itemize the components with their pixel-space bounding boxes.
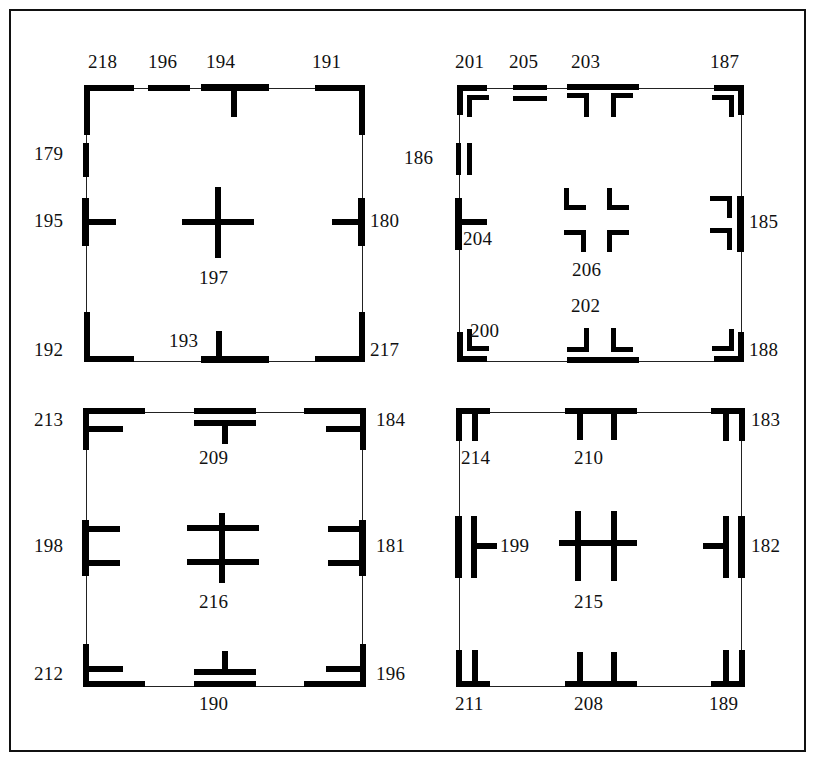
label-215: 215: [574, 592, 603, 611]
label-188: 188: [749, 340, 778, 359]
label-201: 201: [455, 52, 484, 71]
label-191: 191: [312, 52, 341, 71]
label-179: 179: [34, 144, 63, 163]
label-190: 190: [199, 694, 228, 713]
label-195: 195: [34, 211, 63, 230]
label-202: 202: [571, 296, 600, 315]
label-196-bottom: 196: [376, 664, 405, 683]
label-210: 210: [574, 448, 603, 467]
panel-outline: [86, 88, 363, 362]
label-218: 218: [88, 52, 117, 71]
label-217: 217: [370, 340, 399, 359]
label-214: 214: [461, 448, 490, 467]
label-185: 185: [749, 212, 778, 231]
label-181: 181: [376, 536, 405, 555]
label-196-top: 196: [148, 52, 177, 71]
label-184: 184: [376, 410, 405, 429]
label-208: 208: [574, 694, 603, 713]
label-187: 187: [710, 52, 739, 71]
label-206: 206: [572, 260, 601, 279]
panel-top-left: 218 196 194 191 179 195: [86, 88, 363, 362]
label-183: 183: [751, 410, 780, 429]
label-203: 203: [571, 52, 600, 71]
figure-root: 218 196 194 191 179 195: [0, 0, 815, 761]
label-193: 193: [169, 331, 198, 350]
label-204: 204: [463, 229, 492, 248]
panel-outline: [459, 88, 742, 362]
label-213: 213: [34, 410, 63, 429]
panel-top-right: 201 205 203 187 186: [459, 88, 742, 362]
label-182: 182: [751, 536, 780, 555]
label-194: 194: [206, 52, 235, 71]
label-216: 216: [199, 592, 228, 611]
label-197: 197: [199, 268, 228, 287]
label-198: 198: [34, 536, 63, 555]
label-212: 212: [34, 664, 63, 683]
panel-bottom-right: 214 210 183 199 215: [459, 412, 742, 687]
label-211: 211: [455, 694, 483, 713]
panel-bottom-left: 213 209 184 198 216: [86, 412, 363, 687]
label-186: 186: [404, 148, 433, 167]
label-200: 200: [470, 321, 499, 340]
label-180: 180: [370, 211, 399, 230]
label-199: 199: [500, 536, 529, 555]
label-205: 205: [509, 52, 538, 71]
label-189: 189: [709, 694, 738, 713]
label-192: 192: [34, 340, 63, 359]
label-209: 209: [199, 448, 228, 467]
